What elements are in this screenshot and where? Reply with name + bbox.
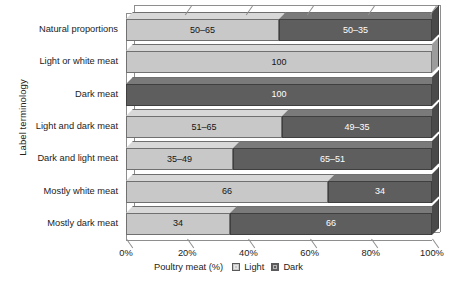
bar-segment-dark[interactable]: 66 [230, 213, 432, 235]
x-axis-tick-mark [248, 239, 255, 249]
bar-side-face [432, 70, 439, 106]
bar-top-face-dark [230, 206, 439, 213]
category-label: Mostly dark meat [14, 218, 118, 228]
bar-row: 100 [126, 84, 432, 106]
bar-segment-value-label: 49–35 [345, 123, 370, 132]
x-axis-tick-mark [432, 239, 439, 249]
category-label: Mostly white meat [14, 186, 118, 196]
bar-row: 100 [126, 51, 432, 73]
bar-segment-value-label: 50–35 [343, 26, 368, 35]
y-axis-category-labels: Natural proportionsLight or white meatDa… [14, 14, 118, 240]
chart-legend: Poultry meat (%) Light Dark [0, 262, 457, 272]
x-axis-tick-mark [310, 239, 317, 249]
x-axis-tick-label: 40% [239, 248, 258, 258]
bar-side-face [432, 102, 439, 138]
x-axis-tick-mark [187, 239, 194, 249]
frame-right-back-edge [440, 5, 441, 232]
bar-segment-value-label: 100 [271, 58, 286, 67]
legend-entry-light: Light [232, 262, 264, 272]
plot-area: 50–6550–3510010051–6549–3535–4965–516634… [126, 14, 432, 240]
bar-segment-dark[interactable]: 49–35 [282, 116, 432, 138]
bar-segment-value-label: 50–65 [190, 26, 215, 35]
bar-top-face-dark [126, 77, 439, 84]
bar-top-face-dark [233, 141, 439, 148]
bar-top-face-light [126, 206, 237, 213]
x-axis-tick-label: 0% [119, 248, 132, 258]
bar-top-face-light [126, 12, 286, 19]
bar-side-face [432, 167, 439, 203]
category-label: Natural proportions [14, 24, 118, 34]
bar-top-face-dark [328, 174, 439, 181]
bar-row: 6634 [126, 181, 432, 203]
x-axis-tick-label: 80% [361, 248, 380, 258]
bar-segment-value-label: 34 [375, 187, 385, 196]
dark-swatch-icon [271, 263, 279, 271]
category-label: Light or white meat [14, 56, 118, 66]
bar-top-face-light [126, 141, 240, 148]
bar-segment-value-label: 34 [173, 219, 183, 228]
bar-segment-value-label: 66 [326, 219, 336, 228]
bar-top-face-light [126, 109, 289, 116]
bar-segment-dark[interactable]: 65–51 [233, 148, 432, 170]
bar-top-face-light [126, 174, 335, 181]
bar-segment-dark[interactable]: 50–35 [279, 19, 432, 41]
bar-segment-light[interactable]: 66 [126, 181, 328, 203]
x-axis-tick-mark [126, 239, 133, 249]
bar-segment-value-label: 35–49 [167, 155, 192, 164]
legend-label-light: Light [244, 262, 264, 272]
bar-row: 51–6549–35 [126, 116, 432, 138]
bar-row: 50–6550–35 [126, 19, 432, 41]
legend-label-dark: Dark [283, 262, 303, 272]
legend-title: Poultry meat (%) [154, 262, 223, 272]
bar-segment-light[interactable]: 100 [126, 51, 432, 73]
category-label: Dark and light meat [14, 153, 118, 163]
bar-segment-light[interactable]: 34 [126, 213, 230, 235]
bar-row: 35–4965–51 [126, 148, 432, 170]
x-axis-tick-label: 100% [420, 248, 444, 258]
back-wall-top-edge [134, 5, 440, 6]
bar-top-face-dark [282, 109, 439, 116]
bar-segment-dark[interactable]: 34 [328, 181, 432, 203]
bar-segment-value-label: 100 [271, 90, 286, 99]
x-axis-tick-label: 20% [178, 248, 197, 258]
bar-side-face [432, 199, 439, 235]
light-swatch-icon [232, 263, 240, 271]
bar-segment-value-label: 51–65 [192, 123, 217, 132]
x-axis-tick-label: 60% [300, 248, 319, 258]
bar-segment-value-label: 65–51 [320, 155, 345, 164]
bar-segment-light[interactable]: 35–49 [126, 148, 233, 170]
bar-top-face-dark [279, 12, 439, 19]
legend-entry-dark: Dark [271, 262, 303, 272]
bar-segment-light[interactable]: 51–65 [126, 116, 282, 138]
bar-side-face [432, 37, 439, 73]
stacked-bar-chart: Label terminology Natural proportionsLig… [0, 0, 457, 282]
bar-segment-dark[interactable]: 100 [126, 84, 432, 106]
bar-segment-value-label: 66 [222, 187, 232, 196]
bar-side-face [432, 134, 439, 170]
x-axis: 0%20%40%60%80%100% [126, 240, 432, 258]
bar-top-face-light [126, 44, 439, 51]
x-axis-tick-mark [371, 239, 378, 249]
category-label: Dark meat [14, 89, 118, 99]
category-label: Light and dark meat [14, 121, 118, 131]
bar-row: 3466 [126, 213, 432, 235]
bar-segment-light[interactable]: 50–65 [126, 19, 279, 41]
